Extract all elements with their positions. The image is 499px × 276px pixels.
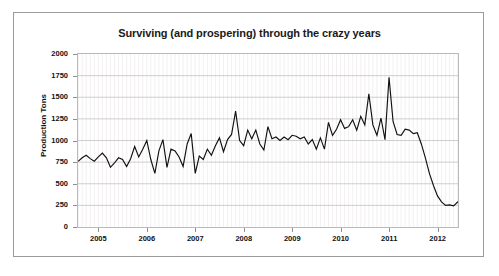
x-axis-tick-mark bbox=[98, 228, 99, 232]
y-axis-title: Production Tons bbox=[39, 81, 48, 171]
x-axis-tick-label: 2008 bbox=[224, 234, 264, 243]
series-line-production-tons bbox=[78, 54, 458, 227]
y-axis-tick-label: 250 bbox=[36, 201, 68, 209]
x-axis-tick-label: 2011 bbox=[369, 234, 409, 243]
plot-area bbox=[77, 53, 459, 228]
x-axis-tick-mark bbox=[195, 228, 196, 232]
x-axis-tick-mark bbox=[147, 228, 148, 232]
y-axis-tick-label: 0 bbox=[36, 223, 68, 231]
x-axis-tick-mark bbox=[292, 228, 293, 232]
x-axis-tick-label: 2009 bbox=[272, 234, 312, 243]
x-axis-tick-label: 2010 bbox=[321, 234, 361, 243]
x-axis-tick-mark bbox=[389, 228, 390, 232]
screenshot-root: Surviving (and prospering) through the c… bbox=[0, 0, 499, 276]
y-axis-tick-label: 2000 bbox=[36, 50, 68, 58]
x-axis-tick-mark bbox=[244, 228, 245, 232]
x-axis-tick-label: 2006 bbox=[127, 234, 167, 243]
chart-container: Surviving (and prospering) through the c… bbox=[13, 12, 484, 257]
x-axis-tick-label: 2012 bbox=[418, 234, 458, 243]
x-axis-tick-label: 2005 bbox=[78, 234, 118, 243]
chart-title: Surviving (and prospering) through the c… bbox=[14, 27, 485, 39]
x-axis-tick-label: 2007 bbox=[175, 234, 215, 243]
y-axis-tick-label: 500 bbox=[36, 180, 68, 188]
x-axis-tick-mark bbox=[438, 228, 439, 232]
x-axis-tick-mark bbox=[341, 228, 342, 232]
y-axis-tick-label: 1750 bbox=[36, 72, 68, 80]
